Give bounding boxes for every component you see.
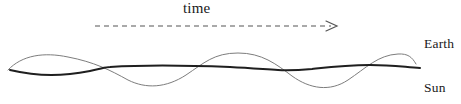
- time-arrow: [95, 21, 337, 31]
- wave-diagram-svg: [0, 0, 461, 104]
- sun-label: Sun: [424, 80, 446, 96]
- time-arrow-head: [326, 21, 337, 31]
- earth-worldline-curve: [8, 53, 416, 88]
- earth-label: Earth: [424, 36, 454, 52]
- figure-canvas: time Earth Sun: [0, 0, 461, 104]
- sun-worldline-curve: [10, 65, 420, 75]
